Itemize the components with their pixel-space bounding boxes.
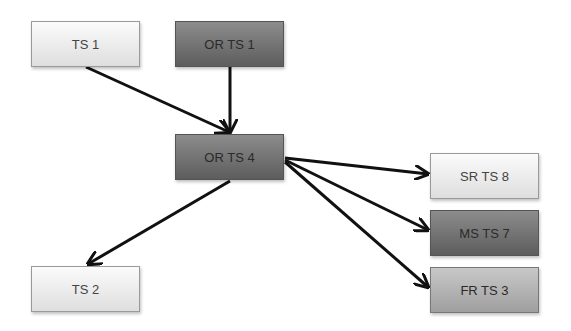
node-ts1: TS 1 <box>31 21 140 67</box>
node-label: FR TS 3 <box>460 283 508 298</box>
flow-diagram: TS 1 OR TS 1 OR TS 4 SR TS 8 MS TS 7 FR … <box>0 0 571 331</box>
node-label: TS 1 <box>72 37 99 52</box>
node-fr-ts3: FR TS 3 <box>430 267 539 313</box>
node-ms-ts7: MS TS 7 <box>430 210 539 256</box>
node-sr-ts8: SR TS 8 <box>430 153 539 199</box>
node-or-ts4: OR TS 4 <box>175 134 284 180</box>
node-label: MS TS 7 <box>459 226 509 241</box>
edge-orts4-frts3 <box>285 162 428 287</box>
edge-ts1-orts4 <box>86 67 229 132</box>
node-label: OR TS 1 <box>204 37 254 52</box>
node-or-ts1: OR TS 1 <box>175 21 284 67</box>
node-label: SR TS 8 <box>460 169 509 184</box>
node-ts2: TS 2 <box>31 266 140 312</box>
node-label: OR TS 4 <box>204 150 254 165</box>
edge-orts4-ts2 <box>88 181 230 264</box>
node-label: TS 2 <box>72 282 99 297</box>
